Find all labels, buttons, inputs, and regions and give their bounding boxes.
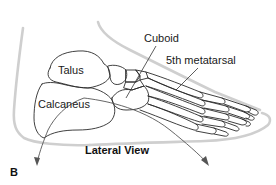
cuboid-leader-line [126,46,156,98]
metatarsal-1 [146,72,203,98]
figure-caption: Lateral View [85,145,149,156]
metatarsal-4 [148,96,203,122]
cuneiform-bone-3 [124,80,144,90]
foot-lateral-view-diagram [0,0,276,185]
panel-letter: B [10,167,18,178]
label-calcaneus: Calcaneus [38,99,90,110]
label-cuboid: Cuboid [144,33,179,44]
calcaneus-bone [34,83,115,139]
navicular-bone [108,65,127,84]
label-talus: Talus [58,65,84,76]
phalanx-dist-2 [226,106,250,119]
arrowhead-left-icon [34,157,40,166]
arrowheads [34,156,209,166]
cuneiform-bone-1 [126,70,140,82]
metatarsal-5 [140,104,198,130]
label-fifth-metatarsal: 5th metatarsal [166,55,236,66]
